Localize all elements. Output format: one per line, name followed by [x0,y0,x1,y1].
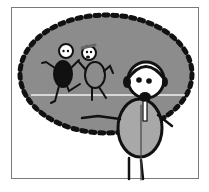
cartoon-illustration [0,0,209,192]
thought-bubble [20,15,192,133]
